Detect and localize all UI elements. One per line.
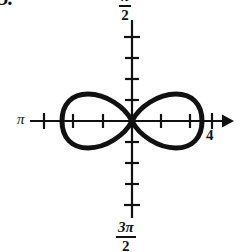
fraction-denominator: 2: [119, 7, 131, 24]
x-axis-label-pi: π: [17, 112, 25, 127]
x-axis-arrow-icon: [222, 115, 234, 128]
y-axis-label-pi-over-two: π 2: [119, 0, 131, 23]
fraction-numerator: 3π: [116, 220, 136, 236]
coordinate-plot: [0, 0, 242, 252]
x-axis-label-four: 4: [206, 128, 214, 143]
fraction-denominator: 2: [116, 238, 136, 252]
y-axis-label-three-pi-over-two: 3π 2: [116, 220, 136, 252]
fraction-pi-over-two: π 2: [119, 0, 131, 23]
polar-graph-figure: 5. π 4: [0, 0, 242, 252]
fraction-three-pi-over-two: 3π 2: [116, 220, 136, 252]
